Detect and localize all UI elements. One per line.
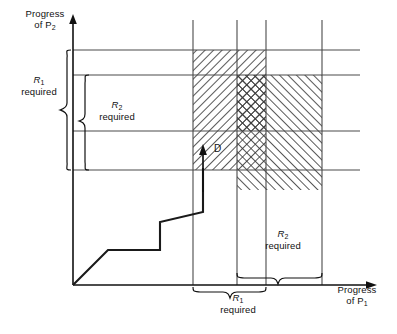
hatch-region-deadlock-b xyxy=(237,75,266,131)
r1-bottom-sub: 1 xyxy=(239,297,243,304)
progress-trajectory xyxy=(73,168,203,285)
r1-bottom-label: R1 required xyxy=(196,292,280,315)
r1-left-sub: 1 xyxy=(40,79,44,86)
r2-left-sub: 2 xyxy=(118,104,122,111)
brace-r1-left xyxy=(60,50,71,170)
axis-x-label-sub: 1 xyxy=(364,300,368,307)
axis-y-label-sub: 2 xyxy=(52,24,56,31)
figure-canvas: Progress of P2 Progress of P1 R1 require… xyxy=(0,0,397,334)
brace-r2-bottom xyxy=(237,273,322,284)
axis-y-label: Progress of P2 xyxy=(8,8,82,31)
axis-y-label-line1: Progress xyxy=(26,8,65,19)
r1-left-label: R1 required xyxy=(8,74,70,97)
r2-bottom-word: required xyxy=(265,240,301,251)
axis-x-label: Progress of P1 xyxy=(318,284,396,307)
r1-bottom-word: required xyxy=(220,304,256,315)
r2-left-label: R2 required xyxy=(84,99,150,122)
brace-r2-left xyxy=(79,75,89,170)
deadlock-marker-label: D xyxy=(214,143,228,154)
r2-left-word: required xyxy=(99,111,135,122)
r1-left-word: required xyxy=(21,86,57,97)
axis-x-label-line1: Progress xyxy=(338,284,377,295)
r2-bottom-label: R2 required xyxy=(252,228,314,251)
axis-x-label-line2: of P xyxy=(346,295,363,306)
axis-y-label-line2: of P xyxy=(34,19,51,30)
r2-bottom-sub: 2 xyxy=(284,233,288,240)
